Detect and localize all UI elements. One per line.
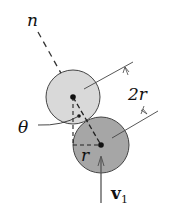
lower-center-dot — [98, 142, 104, 148]
velocity-subscript: 1 — [121, 193, 128, 206]
collision-diagram — [0, 0, 180, 216]
diameter-label: 2r — [128, 86, 147, 103]
dim-ext-upper — [84, 62, 133, 89]
normal-label: n — [27, 12, 38, 29]
velocity-symbol: v — [111, 183, 121, 203]
velocity-label: v1 — [111, 185, 128, 205]
theta-label: θ — [18, 119, 28, 136]
upper-center-dot — [70, 94, 76, 100]
radius-label: r — [81, 147, 89, 164]
